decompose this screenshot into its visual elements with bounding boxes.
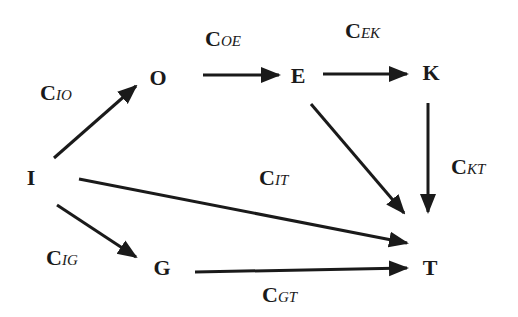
diagram-arrows bbox=[0, 0, 518, 317]
node-k: K bbox=[422, 62, 439, 84]
node-e: E bbox=[291, 65, 306, 87]
arrow-e-to-t bbox=[311, 104, 404, 213]
label-c-oe: COE bbox=[205, 28, 241, 50]
node-i: I bbox=[27, 167, 36, 189]
arrow-i-to-t bbox=[79, 179, 407, 243]
node-g: G bbox=[153, 257, 170, 279]
node-t: T bbox=[423, 257, 438, 279]
node-o: O bbox=[149, 67, 166, 89]
label-c-gt: CGT bbox=[262, 284, 297, 306]
label-c-ek: CEK bbox=[345, 20, 380, 42]
label-c-io: CIO bbox=[40, 82, 72, 104]
label-c-kt: CKT bbox=[451, 156, 485, 178]
label-c-ig: CIG bbox=[46, 247, 78, 269]
arrow-g-to-t bbox=[195, 268, 407, 272]
label-c-it: CIT bbox=[259, 167, 288, 189]
